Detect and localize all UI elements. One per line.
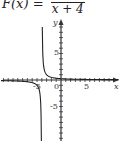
- y-tick-label-neg5: -5: [50, 102, 58, 111]
- x-axis-label: x: [114, 82, 119, 91]
- y-axis-label: y: [52, 18, 58, 27]
- y-tick-label-5: 5: [54, 48, 59, 57]
- function-graph: -5 0 5 x 5 -5 y: [0, 0, 124, 141]
- x-tick-label-neg5: -5: [33, 82, 41, 91]
- y-axis-arrow-icon: [59, 19, 64, 25]
- x-tick-label-5: 5: [84, 82, 89, 91]
- x-tick-label-0: 0: [54, 82, 59, 91]
